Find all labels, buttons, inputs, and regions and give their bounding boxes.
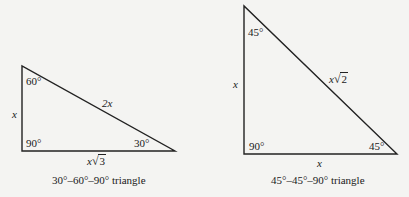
caption-30-60-90: 30°–60°–90° triangle [52,175,146,186]
radicand-2: 2 [340,72,348,85]
caption-45-45-90: 45°–45°–90° triangle [271,175,365,186]
triangles-canvas [0,0,409,197]
radicand-3: 3 [98,154,106,167]
triangle-45-45-90 [244,6,397,154]
angle-label-45-top: 45° [248,27,263,38]
sqrt-3: √3 [92,155,106,167]
sqrt-2: √2 [334,73,348,85]
side-label-hypotenuse: x√2 [329,73,348,85]
side-label-hypotenuse-2x: 2x [102,98,112,109]
angle-label-60: 60° [26,76,41,87]
side-label-long-leg: x√3 [87,155,106,167]
side-label-horizontal-leg: x [317,158,322,169]
triangle-30-60-90 [22,66,175,151]
angle-label-30: 30° [134,138,149,149]
angle-label-90-right: 90° [249,141,264,152]
angle-label-90-left: 90° [26,138,41,149]
angle-label-45-bottom: 45° [369,141,384,152]
side-label-short-leg: x [12,109,17,120]
side-label-vertical-leg: x [233,79,238,90]
